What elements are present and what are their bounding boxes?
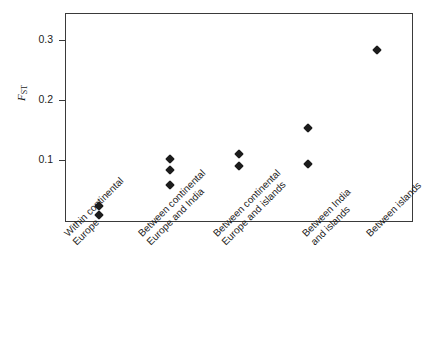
y-axis-title-subscript: ST [20, 85, 29, 94]
data-point [165, 154, 175, 164]
y-tick-label-0.1: 0.1 [38, 153, 53, 165]
data-point [165, 165, 175, 175]
data-point [303, 160, 313, 170]
data-point [165, 180, 175, 190]
y-tick-label-0.3: 0.3 [38, 33, 53, 45]
y-tick-0.1: 0.1 [0, 160, 65, 161]
data-point [234, 149, 244, 159]
data-point [372, 45, 382, 55]
y-axis-title: FST [15, 63, 29, 123]
data-point [303, 123, 313, 133]
y-tick-label-0.2: 0.2 [38, 93, 53, 105]
y-tick-0.3: 0.3 [0, 40, 65, 41]
chart-figure: FST 0.3 0.2 0.1 Within continentalEurope… [0, 0, 427, 339]
y-tick-0.2: 0.2 [0, 100, 65, 101]
data-point [234, 161, 244, 171]
